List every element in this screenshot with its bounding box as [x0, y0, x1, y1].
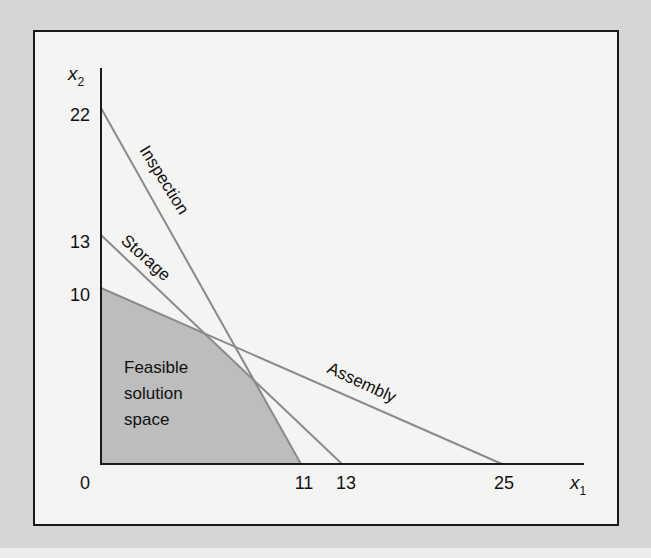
lp-graph: x2 x1 22 13 10 0 11 13 25 Inspection Sto…	[0, 0, 651, 558]
y-tick-10: 10	[70, 285, 90, 305]
y-tick-13: 13	[70, 232, 90, 252]
origin-label: 0	[80, 473, 90, 493]
y-tick-22: 22	[70, 105, 90, 125]
feasible-label-line3: space	[124, 410, 169, 429]
feasible-label-line2: solution	[124, 384, 183, 403]
x-tick-13: 13	[336, 473, 356, 493]
x-tick-11: 11	[295, 473, 314, 493]
x-tick-25: 25	[494, 473, 514, 493]
feasible-label-line1: Feasible	[124, 358, 188, 377]
